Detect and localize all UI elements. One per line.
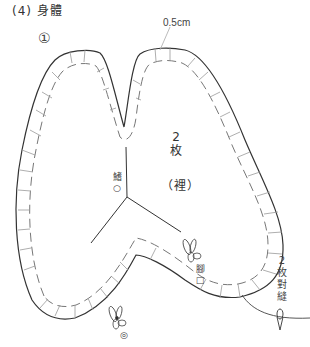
joining-note-3: 對 [276,279,288,291]
fin-marker: 鰭 ○ [111,172,123,194]
fin-marker-label: 鰭 [111,172,123,183]
side-label: （裡） [161,176,200,193]
sewing-line [30,61,268,307]
mouth-marker: ◎ [118,330,130,341]
section-title: (4) 身體 [12,1,63,18]
foot-marker-symbol: □ [194,275,206,286]
joining-note-1: 2 [276,255,288,267]
joining-note-4: 縫 [276,291,288,303]
cut-outline [16,48,283,319]
seam-allowance-label: 0.5cm [163,17,190,28]
placement-lines [91,147,181,243]
mouth-fin-icon [107,305,126,329]
foot-marker-label: 腳 [194,264,206,275]
fin-marker-symbol: ○ [111,183,123,194]
joining-note: 2 枚 對 縫 [276,255,288,303]
seam-allowance-leader [160,27,170,50]
pattern-piece-drawing [0,0,310,347]
joining-note-2: 枚 [276,267,288,279]
piece-count: 2 枚 [170,130,182,158]
piece-count-unit: 枚 [170,144,182,158]
piece-count-number: 2 [170,130,182,144]
foot-marker: 腳 □ [194,264,206,286]
needle-icon [277,309,283,330]
mouth-marker-symbol: ◎ [118,330,130,341]
piece-number: ① [38,30,51,46]
foot-fin-icon [181,238,201,262]
seam-allowance-ticks [18,47,282,318]
